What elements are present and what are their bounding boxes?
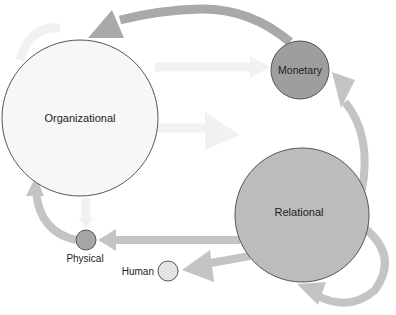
node-monetary: Monetary xyxy=(271,41,329,99)
label-organizational: Organizational xyxy=(45,112,116,124)
arrowhead-faint-relational xyxy=(205,112,240,150)
arrowhead-faint-physical xyxy=(79,218,93,228)
label-relational: Relational xyxy=(275,206,324,218)
label-monetary: Monetary xyxy=(278,64,323,76)
label-human: Human xyxy=(122,266,154,277)
arrow-physical-to-organizational xyxy=(36,192,76,240)
node-relational: Relational xyxy=(235,148,369,282)
arrowhead-human xyxy=(182,250,214,282)
node-human: Human xyxy=(122,261,178,281)
label-physical: Physical xyxy=(66,253,103,264)
arrowhead-organizational-top xyxy=(88,10,124,38)
node-organizational: Organizational xyxy=(2,40,158,196)
arrow-monetary-to-organizational xyxy=(120,9,290,42)
arrow-relational-to-human xyxy=(205,256,250,264)
arrowhead-physical xyxy=(98,229,116,251)
arrowhead-monetary xyxy=(332,72,355,108)
arrowhead-faint-monetary xyxy=(250,56,270,78)
capital-flow-diagram: Organizational Monetary Relational Physi… xyxy=(0,0,396,315)
